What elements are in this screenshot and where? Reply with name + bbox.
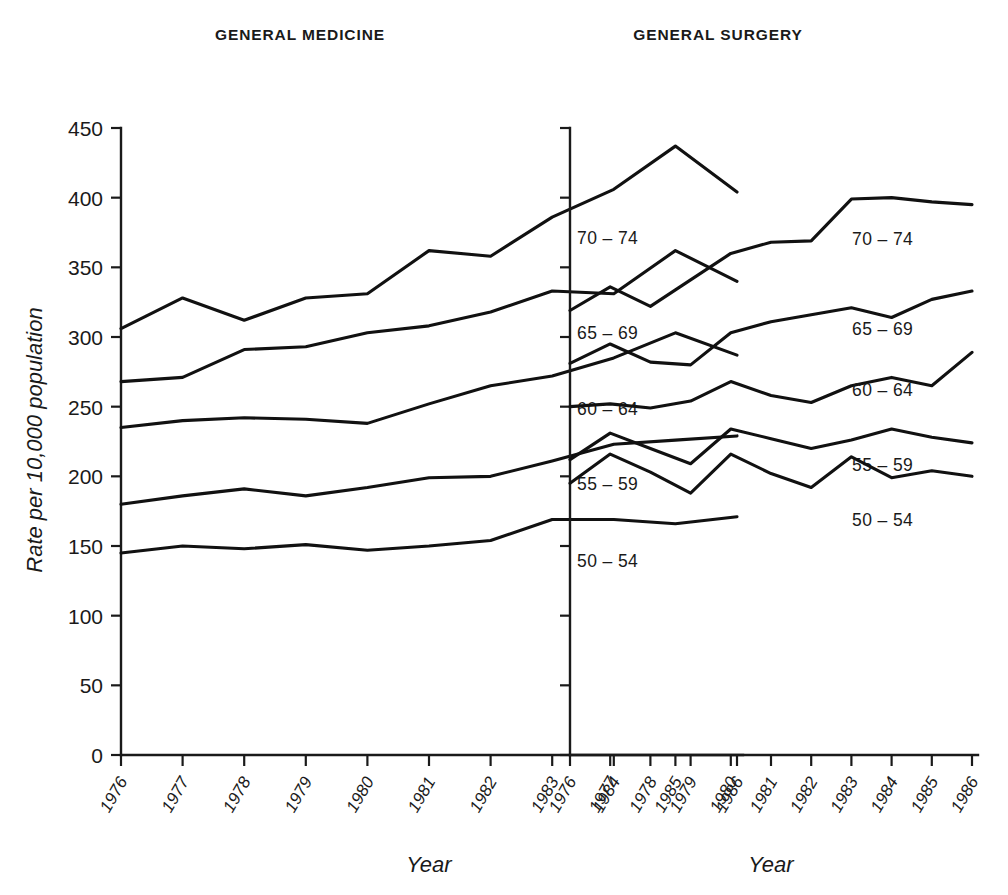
x-tick-label-1981: 1981 <box>404 774 439 816</box>
y-tick-label: 300 <box>68 326 103 349</box>
panel-general-medicine: 0501001502002503003504004501976197719781… <box>68 117 748 877</box>
data-line-7074 <box>570 198 972 311</box>
y-tick-label: 350 <box>68 256 103 279</box>
series-label-5559: 55 – 59 <box>577 474 638 494</box>
x-tick-label-1983: 1983 <box>826 773 862 816</box>
panel-title-general-medicine: GENERAL MEDICINE <box>215 26 385 43</box>
x-tick-label-1981: 1981 <box>746 774 781 816</box>
x-tick-label-1978: 1978 <box>219 773 255 816</box>
x-tick-label-1984: 1984 <box>867 774 902 816</box>
data-line-7074 <box>121 146 737 329</box>
series-label-7074: 70 – 74 <box>852 229 913 249</box>
figure-root: GENERAL MEDICINEGENERAL SURGERYRate per … <box>0 0 1008 895</box>
x-tick-label-1979: 1979 <box>281 773 317 816</box>
series-label-6569: 65 – 69 <box>577 323 638 343</box>
x-axis-title: Year <box>406 852 453 877</box>
series-label-6064: 60 – 64 <box>852 380 913 400</box>
series-label-7074: 70 – 74 <box>577 228 638 248</box>
y-tick-label: 400 <box>68 187 103 210</box>
x-tick-label-1986: 1986 <box>947 773 983 816</box>
x-tick-label-1985: 1985 <box>907 773 943 816</box>
x-axis-title: Year <box>748 852 795 877</box>
series-label-5054: 50 – 54 <box>577 551 638 571</box>
series-label-6569: 65 – 69 <box>852 319 913 339</box>
y-axis-title: Rate per 10,000 population <box>22 307 47 572</box>
y-tick-label: 50 <box>80 674 103 697</box>
x-tick-label-1976: 1976 <box>96 773 132 816</box>
x-tick-label-1980: 1980 <box>342 773 378 816</box>
y-tick-label: 250 <box>68 396 103 419</box>
data-line-6569 <box>121 251 737 382</box>
y-tick-label: 450 <box>68 117 103 140</box>
dual-line-chart: GENERAL MEDICINEGENERAL SURGERYRate per … <box>0 0 1008 895</box>
x-tick-label-1977: 1977 <box>158 773 194 816</box>
y-tick-label: 0 <box>91 744 103 767</box>
data-line-5054 <box>121 517 737 553</box>
y-tick-label: 200 <box>68 465 103 488</box>
series-label-5054: 50 – 54 <box>852 510 913 530</box>
x-tick-label-1982: 1982 <box>466 773 502 816</box>
series-label-6064: 60 – 64 <box>577 399 638 419</box>
y-tick-label: 150 <box>68 535 103 558</box>
x-tick-label-1982: 1982 <box>786 773 822 816</box>
panel-title-general-surgery: GENERAL SURGERY <box>633 26 802 43</box>
y-tick-label: 100 <box>68 605 103 628</box>
data-line-6064 <box>121 333 737 428</box>
